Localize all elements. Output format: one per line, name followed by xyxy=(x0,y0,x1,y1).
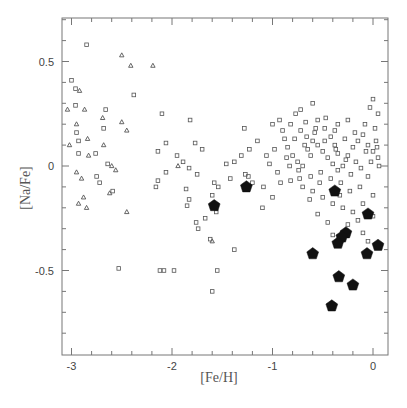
square-marker xyxy=(95,175,99,179)
square-marker xyxy=(212,181,216,185)
triangle-marker xyxy=(77,88,81,92)
square-marker xyxy=(299,108,303,112)
square-marker xyxy=(85,43,89,47)
triangle-marker xyxy=(86,153,90,157)
triangle-marker xyxy=(82,107,86,111)
triangle-marker xyxy=(84,205,88,209)
x-tick-label: -2 xyxy=(167,360,177,372)
square-marker xyxy=(323,127,327,131)
square-marker xyxy=(373,127,377,131)
square-marker xyxy=(314,127,318,131)
square-marker xyxy=(117,267,121,271)
square-marker xyxy=(336,152,340,156)
square-marker xyxy=(304,120,308,124)
square-marker xyxy=(262,185,266,189)
square-marker xyxy=(184,187,188,191)
square-marker xyxy=(351,210,355,214)
triangle-marker xyxy=(101,143,105,147)
square-marker xyxy=(366,143,370,147)
square-marker xyxy=(164,170,168,174)
square-marker xyxy=(279,181,283,185)
square-marker xyxy=(268,162,272,166)
square-marker xyxy=(361,133,365,137)
square-marker xyxy=(316,118,320,122)
pentagon-marker xyxy=(333,271,345,282)
y-tick-labels: 0.50-0.5 xyxy=(35,56,54,277)
square-marker xyxy=(364,150,368,154)
square-marker xyxy=(349,173,353,177)
square-marker xyxy=(248,147,252,151)
square-marker xyxy=(215,269,219,273)
square-marker xyxy=(271,122,275,126)
square-marker xyxy=(371,150,375,154)
square-marker xyxy=(318,181,322,185)
square-marker xyxy=(74,104,78,108)
square-marker xyxy=(356,139,360,143)
square-marker xyxy=(306,147,310,151)
square-marker xyxy=(265,154,269,158)
square-marker xyxy=(156,179,160,183)
data-points xyxy=(65,43,384,311)
pentagon-marker xyxy=(307,248,319,259)
square-marker xyxy=(228,177,232,181)
square-marker xyxy=(210,193,214,197)
square-marker xyxy=(299,129,303,133)
square-marker xyxy=(162,269,166,273)
square-marker xyxy=(346,154,350,158)
pentagon-marker xyxy=(361,248,373,259)
square-marker xyxy=(333,129,337,133)
square-marker xyxy=(369,160,373,164)
square-marker xyxy=(326,221,330,225)
square-marker xyxy=(303,143,307,147)
square-marker xyxy=(278,118,282,122)
triangle-marker xyxy=(81,195,85,199)
square-marker xyxy=(359,166,363,170)
square-marker xyxy=(346,223,350,227)
square-marker xyxy=(293,137,297,141)
square-marker xyxy=(75,131,79,135)
square-marker xyxy=(336,122,340,126)
square-marker xyxy=(329,135,333,139)
y-tick-label: 0.5 xyxy=(39,56,54,68)
square-marker xyxy=(283,137,287,141)
square-marker xyxy=(308,198,312,202)
triangle-marker xyxy=(67,143,71,147)
square-marker xyxy=(323,139,327,143)
square-marker xyxy=(375,145,379,149)
y-axis-label: [Na/Fe] xyxy=(18,166,33,210)
square-marker xyxy=(311,102,315,106)
square-marker xyxy=(336,168,340,172)
square-marker xyxy=(366,239,370,243)
square-marker xyxy=(285,156,289,160)
x-tick-label: -1 xyxy=(268,360,278,372)
square-marker xyxy=(98,181,102,185)
scatter-chart: -3-2-10 0.50-0.5 [Fe/H] [Na/Fe] xyxy=(0,0,407,408)
square-marker xyxy=(331,202,335,206)
square-marker xyxy=(187,198,191,202)
square-marker xyxy=(343,137,347,141)
square-marker xyxy=(353,131,357,135)
square-marker xyxy=(175,154,179,158)
square-marker xyxy=(94,152,98,156)
triangle-marker xyxy=(151,63,155,67)
square-marker xyxy=(348,189,352,193)
square-marker xyxy=(334,147,338,151)
square-marker xyxy=(194,221,198,225)
square-marker xyxy=(309,154,313,158)
square-marker xyxy=(319,170,323,174)
triangle-marker xyxy=(79,176,83,180)
square-marker xyxy=(102,127,106,131)
square-marker xyxy=(316,143,320,147)
square-marker xyxy=(341,164,345,168)
triangle-marker xyxy=(85,136,89,140)
square-marker xyxy=(74,87,78,91)
square-marker xyxy=(233,160,237,164)
square-marker xyxy=(156,150,160,154)
square-marker xyxy=(351,145,355,149)
minor-ticks xyxy=(62,18,388,355)
square-marker xyxy=(289,122,293,126)
square-marker xyxy=(200,147,204,151)
plot-frame xyxy=(62,18,388,355)
square-marker xyxy=(331,162,335,166)
square-marker xyxy=(160,112,164,116)
